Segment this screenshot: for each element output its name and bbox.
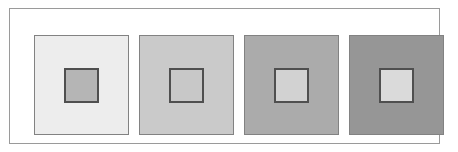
swatch-panel-1 — [34, 35, 129, 135]
swatch-panel-2 — [139, 35, 234, 135]
inner-square-3 — [274, 68, 309, 103]
inner-square-4 — [379, 68, 414, 103]
figure-frame — [9, 8, 440, 144]
swatch-panel-3 — [244, 35, 339, 135]
inner-square-1 — [64, 68, 99, 103]
figure-canvas — [0, 0, 458, 152]
inner-square-2 — [169, 68, 204, 103]
swatch-panel-4 — [349, 35, 444, 135]
swatch-panel-row — [34, 35, 444, 135]
